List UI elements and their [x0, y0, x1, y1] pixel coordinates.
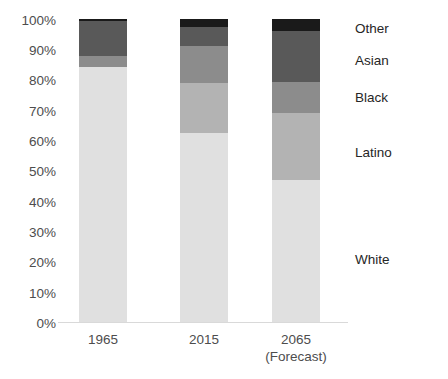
bar-2015-segment-other[interactable] [180, 19, 228, 27]
bar-1965-segment-asian[interactable] [79, 21, 127, 56]
legend-item-white[interactable]: White [355, 253, 390, 267]
x-axis-label-2065-sublabel: (Forecast) [236, 348, 356, 365]
y-axis-tick-80: 80% [2, 74, 56, 88]
y-axis-tick-20: 20% [2, 256, 56, 270]
bar-2065-segment-asian[interactable] [272, 31, 320, 82]
stacked-bar-chart: Projected U.S. population by race/ethnic… [0, 0, 448, 379]
y-axis-tick-40: 40% [2, 196, 56, 210]
bar-2065-segment-white[interactable] [272, 180, 320, 322]
plot-area: 100% 90% 80% 70% 60% 50% 40% 30% 20% 10%… [0, 0, 448, 379]
bar-1965[interactable] [79, 19, 127, 322]
bar-2015[interactable] [180, 19, 228, 322]
bar-1965-segment-black[interactable] [79, 56, 127, 67]
x-axis-label-2015-year: 2015 [189, 332, 219, 347]
x-axis-label-2065: 2065 (Forecast) [236, 331, 356, 365]
bar-2015-segment-white[interactable] [180, 133, 228, 322]
bar-1965-segment-white[interactable] [79, 67, 127, 322]
bar-2065-segment-latino[interactable] [272, 113, 320, 180]
bar-2015-segment-black[interactable] [180, 46, 228, 83]
x-axis-label-2065-year: 2065 [281, 332, 311, 347]
bar-2065-segment-black[interactable] [272, 82, 320, 113]
bar-2015-segment-latino[interactable] [180, 83, 228, 133]
bar-2065-segment-other[interactable] [272, 19, 320, 31]
legend-item-other[interactable]: Other [355, 22, 389, 36]
y-axis-tick-100: 100% [2, 14, 56, 28]
y-axis-tick-60: 60% [2, 135, 56, 149]
legend-item-black[interactable]: Black [355, 91, 388, 105]
y-axis-tick-70: 70% [2, 105, 56, 119]
bar-2015-segment-asian[interactable] [180, 27, 228, 46]
legend-item-latino[interactable]: Latino [355, 146, 392, 160]
y-axis-tick-50: 50% [2, 165, 56, 179]
x-axis-label-1965-year: 1965 [88, 332, 118, 347]
legend-item-asian[interactable]: Asian [355, 54, 389, 68]
y-axis-tick-90: 90% [2, 44, 56, 58]
y-axis-tick-0: 0% [2, 317, 56, 331]
x-axis-baseline [58, 322, 348, 323]
y-axis-tick-10: 10% [2, 287, 56, 301]
bar-2065[interactable] [272, 19, 320, 322]
y-axis-tick-30: 30% [2, 226, 56, 240]
